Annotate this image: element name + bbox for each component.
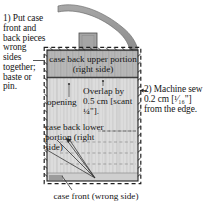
step-1-instruction: 1) Put case front and back pieces wrong … [3,14,46,92]
label-case-back-lower: case back lower portion (right side) [45,122,107,152]
strap-handle [58,5,138,50]
label-opening: opening [47,98,77,108]
sewing-diagram-figure: 1) Put case front and back pieces wrong … [0,0,211,213]
label-case-front: case front (wrong side) [48,191,144,201]
label-case-back-upper: case back upper portion (right side) [48,54,138,75]
label-overlap: Overlap by 0.5 cm [scant ¼"]. [83,86,135,116]
step-2-instruction: 2) Machine sew 0.2 cm [¹⁄₁₆"] from the e… [144,85,210,114]
